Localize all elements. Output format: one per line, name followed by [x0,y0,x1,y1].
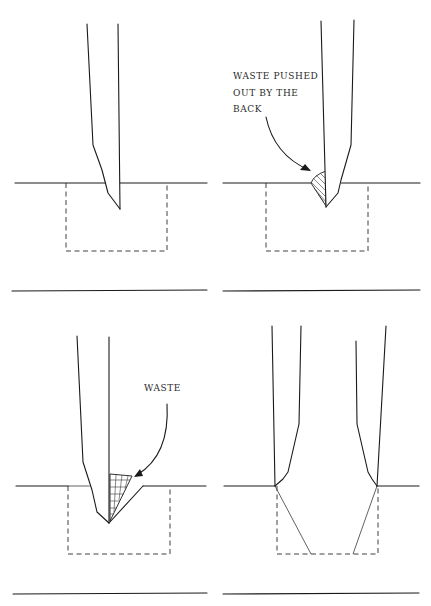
arrow-to-waste [266,117,311,171]
chisel-left [272,326,301,486]
bevel-angle-line-left [275,486,311,554]
bevel-angle-line-right [353,486,377,554]
chisel [321,20,354,207]
wood-bottom-line [12,290,207,291]
waste-label: WASTE [144,380,181,397]
mortise-chisel-diagram: .ln { stroke: #1a1a1a; stroke-width: 1.1… [0,0,431,606]
arrow-to-waste [134,404,167,477]
mortise-outline [277,486,378,554]
wood-bottom-line [13,593,207,594]
panel-2 [223,20,420,291]
wood-bottom-line [223,593,419,594]
waste-chip-hatched [110,474,132,521]
diagram-canvas: .ln { stroke: #1a1a1a; stroke-width: 1.1… [0,0,431,606]
panel-4 [223,326,419,594]
chisel-right [356,326,386,486]
panel-1 [12,24,207,291]
mortise-outline [266,183,368,251]
waste-chip-hatched [311,171,326,206]
chisel [87,24,120,209]
waste-pushed-label: WASTE PUSHED OUT BY THE BACK [233,68,318,118]
wood-bottom-line [223,290,420,291]
chisel [77,336,109,523]
panel-3 [13,336,207,594]
